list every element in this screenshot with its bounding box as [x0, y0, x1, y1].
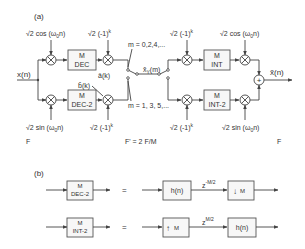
rate-mid: F' = 2 F/M: [125, 138, 157, 145]
wire-to-top-mixer: [38, 60, 46, 80]
even-pointer: [128, 49, 132, 67]
dec-block-top: M DEC: [68, 50, 96, 70]
input-label: x(n): [17, 70, 31, 79]
mixer-top-mid: [103, 55, 113, 65]
dec2-block-lhs: M DEC-2: [67, 181, 93, 200]
block-diagram: (a) x(n) √2 cos (ω0n) M DEC √2 (-1)k â(k…: [0, 0, 305, 249]
a-k-label: â(k): [98, 72, 110, 80]
delay-row1: z-M/2: [202, 179, 216, 189]
up-arrow-icon: ↑: [166, 224, 170, 233]
mixer-top-right-2: [240, 55, 250, 65]
filter-block-row2: h(n): [228, 218, 256, 237]
lo-cos-left-label: √2 cos (ω0n): [26, 30, 65, 39]
output-label: x̃(n): [270, 68, 284, 77]
rate-left: F: [26, 138, 30, 145]
delay-row2: zM/2: [202, 216, 214, 226]
mixer-bottom-right-2: [240, 95, 250, 105]
svg-text:DEC: DEC: [75, 61, 90, 68]
wire-to-adder: [250, 60, 259, 75]
svg-text:M: M: [174, 225, 179, 231]
mixer-top-left: [46, 55, 56, 65]
svg-text:INT: INT: [211, 61, 223, 68]
svg-text:M: M: [79, 92, 85, 99]
mixer-bottom-right-1: [182, 95, 192, 105]
svg-text:DEC-2: DEC-2: [71, 101, 92, 108]
equals-1: =: [122, 186, 127, 195]
upsample-block: ↑ M: [163, 218, 189, 237]
mixer-bottom-left: [46, 95, 56, 105]
filter-block-row1: h(n): [163, 181, 191, 200]
svg-text:M: M: [78, 220, 83, 226]
mixer-top-right-1: [182, 55, 192, 65]
part-b-label: (b): [34, 169, 44, 178]
wire-to-adder: [250, 85, 259, 100]
sign-top-right-label: √2 (-1)k: [170, 28, 194, 38]
wire-to-switch-a: [113, 60, 128, 70]
svg-text:INT-2: INT-2: [208, 101, 225, 108]
commutator-left: [127, 69, 139, 80]
wire-to-right-top-mixer: [168, 60, 181, 69]
rate-right: F: [277, 138, 281, 145]
svg-text:h(n): h(n): [171, 187, 183, 195]
lo-sin-right-label: √2 sin (ω0n): [222, 124, 259, 133]
sign-bottom-right-label: √2 (-1)k: [170, 122, 194, 132]
wire-to-switch-b: [113, 78, 128, 100]
switch-odd-label: m = 1, 3, 5,...: [128, 102, 169, 109]
sign-bottom-left-label: √2 (-1)k: [90, 122, 114, 132]
wire-to-right-bottom-mixer: [168, 79, 181, 100]
svg-text:h(n): h(n): [236, 224, 248, 232]
lo-cos-right-label: √2 cos (ω0n): [220, 30, 259, 39]
part-a-label: (a): [34, 12, 44, 21]
svg-text:DEC-2: DEC-2: [71, 191, 90, 197]
svg-text:M: M: [240, 188, 245, 194]
int2-block-bottom: M INT-2: [204, 90, 230, 110]
switch-even-label: m = 0,2,4,...: [128, 41, 165, 48]
b-k-label: b̂(k): [78, 82, 90, 90]
mixer-bottom-mid: [103, 95, 113, 105]
svg-text:M: M: [214, 92, 220, 99]
dec2-block-bottom: M DEC-2: [68, 90, 96, 110]
wire-to-bottom-mixer: [38, 80, 46, 100]
downsample-block: ↓ M: [228, 181, 254, 200]
svg-text:+: +: [257, 76, 262, 85]
sign-top-left-label: √2 (-1)k: [88, 28, 112, 38]
lo-sin-left-label: √2 sin (ω0n): [26, 124, 63, 133]
adder: +: [254, 75, 264, 85]
svg-text:M: M: [214, 52, 220, 59]
svg-text:INT-2: INT-2: [73, 228, 88, 234]
equals-2: =: [122, 223, 127, 232]
int2-block-lhs: M INT-2: [67, 218, 93, 237]
svg-text:M: M: [78, 183, 83, 189]
svg-text:M: M: [79, 52, 85, 59]
down-arrow-icon: ↓: [233, 187, 237, 196]
int-block-top: M INT: [204, 50, 230, 70]
